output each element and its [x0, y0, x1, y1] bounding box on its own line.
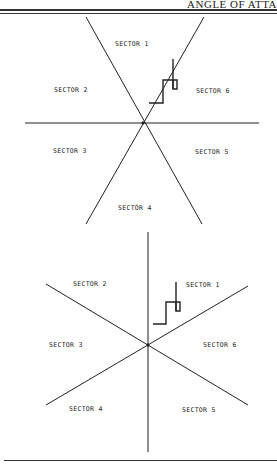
bottom-sector-labels: SECTOR 2 SECTOR 1 SECTOR 3 SECTOR 6 SECT… — [49, 280, 237, 414]
bottom-sector-6-label: SECTOR 6 — [203, 341, 237, 349]
top-sector-1-label: SECTOR 1 — [115, 40, 149, 48]
bottom-sector-5-label: SECTOR 5 — [182, 406, 216, 414]
aircraft-symbol-icon — [153, 282, 180, 324]
top-sector-3-label: SECTOR 3 — [53, 147, 87, 155]
top-sector-6-label: SECTOR 6 — [196, 87, 230, 95]
top-sector-5-label: SECTOR 5 — [195, 148, 229, 156]
bottom-sector-2-label: SECTOR 2 — [73, 280, 107, 288]
top-diagram — [25, 17, 259, 224]
bottom-sector-3-label: SECTOR 3 — [49, 341, 83, 349]
top-sector-2-label: SECTOR 2 — [54, 86, 88, 94]
bottom-sector-1-label: SECTOR 1 — [186, 281, 220, 289]
bottom-sector-4-label: SECTOR 4 — [69, 405, 103, 413]
aircraft-symbol-icon — [149, 59, 177, 103]
top-sector-4-label: SECTÓR 4 — [118, 203, 152, 212]
sector-diagrams: SECTOR 1 SECTOR 2 SECTOR 6 SECTOR 3 SECT… — [0, 0, 277, 471]
